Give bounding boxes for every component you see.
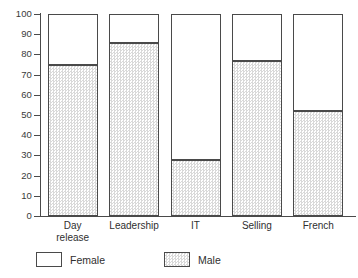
y-axis-tick-label: 30 [6, 150, 32, 160]
y-axis-tick-label: 80 [6, 49, 32, 59]
y-axis-tick-label: 40 [6, 130, 32, 140]
bar-stack[interactable] [293, 14, 343, 216]
bar-stack[interactable] [232, 14, 282, 216]
y-axis-tick [34, 75, 41, 76]
y-axis-tick [34, 176, 41, 177]
x-axis-line [34, 216, 356, 217]
y-axis-tick [34, 34, 41, 35]
y-axis-tick [34, 54, 41, 55]
white-square-icon [36, 252, 62, 267]
plot-area [42, 14, 349, 216]
y-axis-tick-label: 100 [6, 9, 32, 19]
bar-segment-female[interactable] [232, 14, 282, 61]
y-axis-tick [34, 196, 41, 197]
stacked-bar-chart: 0102030405060708090100 Day releaseLeader… [0, 0, 358, 278]
legend-label: Male [198, 254, 221, 266]
y-axis-tick [34, 14, 41, 15]
bar-segment-male[interactable] [232, 61, 282, 216]
bar-segment-female[interactable] [109, 14, 159, 43]
y-axis-tick-label: 50 [6, 110, 32, 120]
bar-stack[interactable] [48, 14, 98, 216]
y-axis-tick-label: 20 [6, 171, 32, 181]
bar-segment-female[interactable] [171, 14, 221, 160]
legend-label: Female [70, 254, 105, 266]
y-axis-tick-label: 10 [6, 191, 32, 201]
y-axis-tick-label: 70 [6, 70, 32, 80]
bar-segment-female[interactable] [48, 14, 98, 65]
y-axis-tick [34, 216, 41, 217]
bar-stack[interactable] [171, 14, 221, 216]
y-axis-tick-label: 60 [6, 90, 32, 100]
bar-segment-male[interactable] [48, 65, 98, 217]
bar-segment-male[interactable] [109, 43, 159, 216]
legend-item-female[interactable]: Female [36, 252, 105, 267]
stippled-square-icon [164, 252, 190, 267]
legend-item-male[interactable]: Male [164, 252, 221, 267]
bar-stack[interactable] [109, 14, 159, 216]
x-axis-label-french: French [273, 220, 358, 232]
bar-segment-female[interactable] [293, 14, 343, 111]
bar-segment-male[interactable] [171, 160, 221, 216]
y-axis-tick [34, 135, 41, 136]
y-axis-tick-label: 90 [6, 29, 32, 39]
bar-segment-male[interactable] [293, 111, 343, 216]
y-axis-tick [34, 155, 41, 156]
y-axis-tick [34, 95, 41, 96]
y-axis-tick [34, 115, 41, 116]
